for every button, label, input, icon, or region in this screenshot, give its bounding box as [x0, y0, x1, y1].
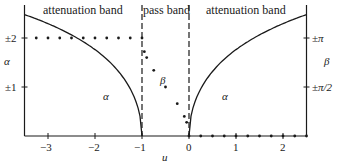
- x-tick-label-m2: −2: [88, 142, 100, 153]
- beta-dot: [58, 37, 61, 40]
- beta-dots-label: β: [160, 75, 165, 86]
- beta-dot: [293, 135, 296, 138]
- beta-dot: [82, 37, 85, 40]
- beta-dot: [105, 37, 108, 40]
- beta-dot: [129, 37, 132, 40]
- alpha-curve-right: [189, 15, 307, 136]
- beta-dot: [270, 135, 273, 138]
- tick-label-pm2: ±2: [5, 33, 17, 44]
- tick-label-pm1: ±1: [5, 82, 17, 93]
- alpha-axis-label: α: [4, 56, 10, 67]
- beta-dot: [282, 135, 285, 138]
- x-tick-label-1: 1: [233, 142, 239, 153]
- alpha-curve-left: [25, 15, 143, 136]
- x-tick-label-m1: −1: [134, 142, 146, 153]
- beta-dot: [94, 37, 97, 40]
- beta-axis-label: β: [324, 56, 329, 67]
- dispersion-diagram: attenuation band pass band attenuation b…: [0, 0, 337, 164]
- beta-dot: [35, 37, 38, 40]
- beta-dot: [47, 37, 50, 40]
- alpha-left-curve-label: α: [103, 91, 109, 102]
- tick-label-pi-half: ±π/2: [312, 82, 332, 93]
- plot-area: [0, 0, 337, 164]
- beta-dot: [152, 69, 155, 72]
- beta-dot: [185, 121, 188, 124]
- x-tick-label-m3: −3: [40, 142, 52, 153]
- band-label-pass: pass band: [143, 4, 190, 16]
- beta-dot: [246, 135, 249, 138]
- u-axis-label: u: [162, 152, 168, 163]
- beta-dot: [188, 135, 191, 138]
- x-tick-label-0: 0: [186, 142, 192, 153]
- alpha-right-curve-label: α: [222, 91, 228, 102]
- beta-dot: [70, 37, 73, 40]
- tick-label-pi: ±π: [312, 33, 324, 44]
- beta-dot: [305, 135, 308, 138]
- beta-dot: [145, 56, 148, 59]
- x-tick-label-2: 2: [280, 142, 286, 153]
- beta-dot: [235, 135, 238, 138]
- beta-dot: [176, 102, 179, 105]
- beta-dot: [143, 50, 146, 53]
- beta-dot: [223, 135, 226, 138]
- beta-dot: [183, 115, 186, 118]
- beta-dot: [164, 86, 167, 89]
- beta-dot: [211, 135, 214, 138]
- beta-dot: [117, 37, 120, 40]
- beta-dot: [141, 37, 144, 40]
- beta-dot: [258, 135, 261, 138]
- band-label-attenuation-right: attenuation band: [206, 4, 286, 16]
- band-label-attenuation-left: attenuation band: [43, 4, 123, 16]
- beta-dot: [199, 135, 202, 138]
